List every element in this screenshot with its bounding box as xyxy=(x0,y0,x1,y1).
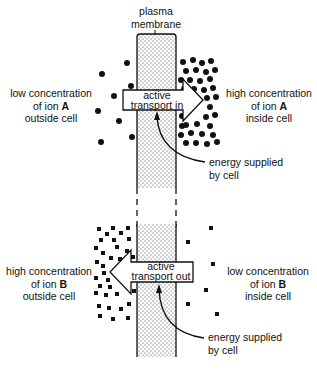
label-line2: of ion A xyxy=(6,100,96,113)
label-prefix: of ion xyxy=(250,278,279,290)
energy-line2: by cell xyxy=(208,344,282,357)
ion-b-outside-label: high concentration of ion B outside cell xyxy=(4,265,94,303)
ion-name: A xyxy=(62,100,70,112)
membrane-label: plasma membrane xyxy=(126,5,186,30)
ion-b-inside-label: low concentration of ion B inside cell xyxy=(224,265,312,303)
label-line2: of ion B xyxy=(224,278,312,291)
arrow-out-label: active transport out xyxy=(128,261,194,281)
label-line1: high concentration xyxy=(4,265,94,278)
membrane-label-line2: membrane xyxy=(126,18,186,31)
label-prefix: of ion xyxy=(33,100,62,112)
label-line3: outside cell xyxy=(6,112,96,125)
energy-label-bottom: energy supplied by cell xyxy=(208,331,282,356)
label-line2: of ion A xyxy=(224,100,314,113)
label-line3: inside cell xyxy=(224,290,312,303)
energy-line1: energy supplied xyxy=(208,331,282,344)
label-line2: of ion B xyxy=(4,278,94,291)
ion-a-inside-label: high concentration of ion A inside cell xyxy=(224,87,314,125)
active-transport-diagram xyxy=(0,0,317,370)
label-line1: low concentration xyxy=(224,265,312,278)
label-line1: high concentration xyxy=(224,87,314,100)
arrow-in-label: active transport in xyxy=(124,90,190,110)
label-prefix: of ion xyxy=(251,100,280,112)
label-line3: inside cell xyxy=(224,112,314,125)
ion-name: B xyxy=(60,278,68,290)
plasma-membrane-lower xyxy=(137,224,176,357)
energy-label-top: energy supplied by cell xyxy=(209,156,283,181)
label-line3: outside cell xyxy=(4,290,94,303)
arrow-line2: transport out xyxy=(128,271,194,281)
label-line1: low concentration xyxy=(6,87,96,100)
ion-name: B xyxy=(279,278,287,290)
energy-line1: energy supplied xyxy=(209,156,283,169)
arrow-line2: transport in xyxy=(124,100,190,110)
ion-a-outside-label: low concentration of ion A outside cell xyxy=(6,87,96,125)
ion-name: A xyxy=(280,100,288,112)
label-prefix: of ion xyxy=(31,278,60,290)
membrane-label-line1: plasma xyxy=(126,5,186,18)
membrane-break xyxy=(137,188,176,228)
energy-line2: by cell xyxy=(209,169,283,182)
